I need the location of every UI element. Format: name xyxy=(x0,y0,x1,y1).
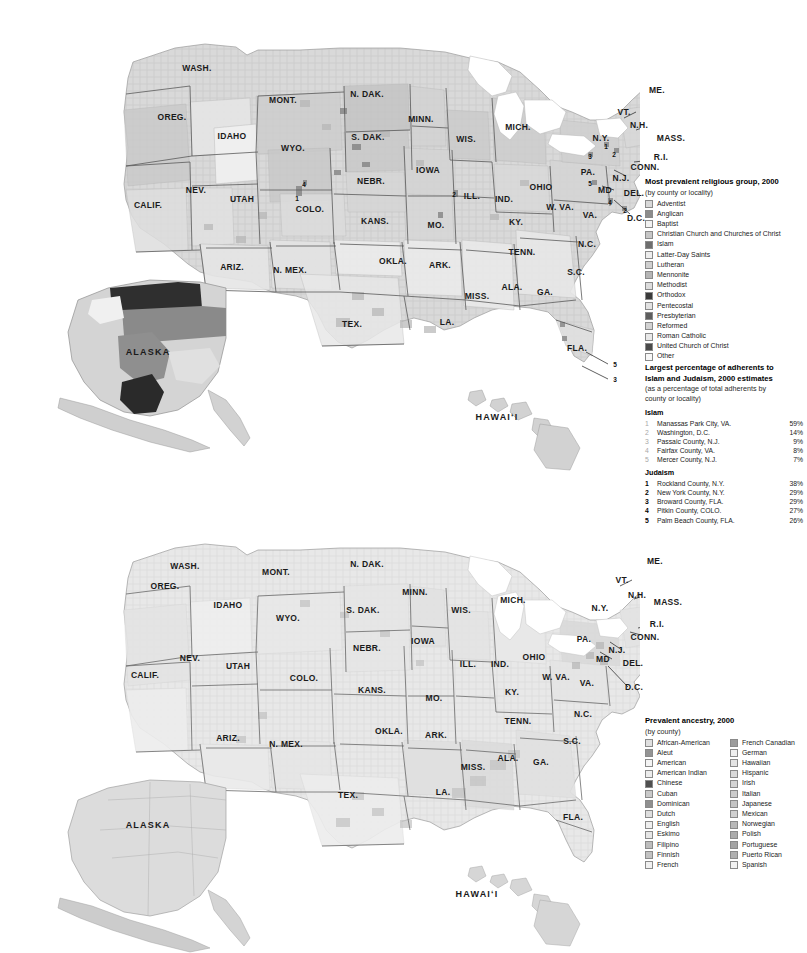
ancestry-legend-item[interactable]: Chinese xyxy=(645,780,720,788)
religion-legend-item[interactable]: United Church of Christ xyxy=(645,343,803,351)
ancestry-legend-label: Hispanic xyxy=(742,770,768,777)
ml-rank-groups: Islam1Manassas Park City, VA.59%2Washing… xyxy=(645,408,803,524)
religion-legend-item[interactable]: Lutheran xyxy=(645,261,803,269)
islam-judaism-legend: Largest percentage of adherents to Islam… xyxy=(645,363,803,526)
ancestry-legend-swatch-icon xyxy=(730,861,738,869)
ancestry-legend-item[interactable]: American xyxy=(645,759,720,767)
religion-legend-swatch-icon xyxy=(645,210,653,218)
ancestry-legend-swatch-icon xyxy=(645,749,653,757)
ancestry-legend-label: Italian xyxy=(742,791,760,798)
ancestry-legend-item[interactable]: Hispanic xyxy=(730,770,805,778)
ancestry-legend-item[interactable]: Portuguese xyxy=(730,841,805,849)
ancestry-legend-item[interactable]: German xyxy=(730,749,805,757)
religion-legend-swatch-icon xyxy=(645,200,653,208)
religion-legend-item[interactable]: Reformed xyxy=(645,322,803,330)
ancestry-legend-item[interactable]: Japanese xyxy=(730,800,805,808)
ancestry-legend-label: Japanese xyxy=(742,801,772,808)
rank-number: 5 xyxy=(645,456,657,463)
rank-percentage: 38% xyxy=(781,480,803,487)
ancestry-legend-item[interactable]: Puerto Rican xyxy=(730,851,805,859)
state-label: R.I. xyxy=(650,619,664,629)
religion-legend-item[interactable]: Latter-Day Saints xyxy=(645,251,803,259)
rank-place-name: Palm Beach County, FLA. xyxy=(657,517,781,524)
religion-legend-item[interactable]: Baptist xyxy=(645,220,803,228)
ancestry-legend-item[interactable]: French Canadian xyxy=(730,739,805,747)
ancestry-map-graphic xyxy=(0,500,640,953)
religion-legend-item[interactable]: Mennonite xyxy=(645,271,803,279)
state-label: MASS. xyxy=(657,133,685,143)
ancestry-legend-item[interactable]: Dominican xyxy=(645,800,720,808)
ancestry-legend-item[interactable]: Cuban xyxy=(645,790,720,798)
religion-map-graphic xyxy=(0,0,640,500)
ancestry-legend-item[interactable]: Eskimo xyxy=(645,831,720,839)
religion-legend-item[interactable]: Roman Catholic xyxy=(645,333,803,341)
map-rank-marker: 4 xyxy=(302,181,306,188)
religion-legend-label: Christian Church and Churches of Christ xyxy=(657,231,781,238)
ancestry-legend-title: Prevalent ancestry, 2000 xyxy=(645,716,805,726)
ancestry-legend-item[interactable]: Filipino xyxy=(645,841,720,849)
ancestry-legend-items-left: African-AmericanAleutAmericanAmerican In… xyxy=(645,739,720,871)
ancestry-legend-label: Chinese xyxy=(657,780,682,787)
ancestry-legend-label: American Indian xyxy=(657,770,707,777)
religion-legend-label: Other xyxy=(657,353,674,360)
ancestry-legend-item[interactable]: African-American xyxy=(645,739,720,747)
religion-legend-label: Anglican xyxy=(657,211,683,218)
religion-legend-item[interactable]: Presbyterian xyxy=(645,312,803,320)
ancestry-legend-label: Dominican xyxy=(657,801,690,808)
ancestry-legend-item[interactable]: Dutch xyxy=(645,810,720,818)
religion-legend-item[interactable]: Orthodox xyxy=(645,292,803,300)
ancestry-legend-swatch-icon xyxy=(645,800,653,808)
religion-map[interactable]: WASH.OREG.IDAHOMONT.N. DAK.S. DAK.MINN.W… xyxy=(0,0,640,500)
rank-percentage: 7% xyxy=(781,456,803,463)
map-page: WASH.OREG.IDAHOMONT.N. DAK.S. DAK.MINN.W… xyxy=(0,0,807,953)
religion-legend-item[interactable]: Islam xyxy=(645,241,803,249)
religion-legend-item[interactable]: Christian Church and Churches of Christ xyxy=(645,231,803,239)
ancestry-legend-label: Cuban xyxy=(657,791,677,798)
rank-number: 1 xyxy=(645,480,657,487)
religion-legend-label: Presbyterian xyxy=(657,313,696,320)
religion-legend-item[interactable]: Methodist xyxy=(645,282,803,290)
ancestry-legend-swatch-icon xyxy=(645,861,653,869)
ancestry-legend-label: Finnish xyxy=(657,852,679,859)
rank-row: 1Rockland County, N.Y.38% xyxy=(645,480,803,487)
religion-legend-item[interactable]: Adventist xyxy=(645,200,803,208)
rank-place-name: Pitkin County, COLO. xyxy=(657,507,781,514)
ancestry-map[interactable]: WASH.OREG.IDAHOMONT.N. DAK.S. DAK.MINN.W… xyxy=(0,500,640,953)
map-rank-marker: 3 xyxy=(613,376,617,383)
religion-legend-item[interactable]: Pentecostal xyxy=(645,302,803,310)
ancestry-legend-item[interactable]: French xyxy=(645,861,720,869)
religion-legend-label: United Church of Christ xyxy=(657,343,729,350)
rank-number: 1 xyxy=(645,420,657,427)
ancestry-legend-swatch-icon xyxy=(645,780,653,788)
ancestry-legend-label: English xyxy=(657,821,680,828)
rank-row: 5Mercer County, N.J.7% xyxy=(645,456,803,463)
ancestry-legend-swatch-icon xyxy=(645,759,653,767)
map-rank-marker: 4 xyxy=(608,199,612,206)
ancestry-legend-item[interactable]: Finnish xyxy=(645,851,720,859)
ancestry-legend-swatch-icon xyxy=(645,810,653,818)
ancestry-legend-item[interactable]: Polish xyxy=(730,831,805,839)
ancestry-legend-label: Aleut xyxy=(657,750,673,757)
religion-legend-item[interactable]: Other xyxy=(645,353,803,361)
rank-place-name: Mercer County, N.J. xyxy=(657,456,781,463)
ancestry-legend-label: Dutch xyxy=(657,811,675,818)
ancestry-legend-item[interactable]: American Indian xyxy=(645,770,720,778)
map-rank-marker: 2 xyxy=(452,191,456,198)
religion-legend-item[interactable]: Anglican xyxy=(645,210,803,218)
ancestry-legend-item[interactable]: Mexican xyxy=(730,810,805,818)
ancestry-legend-swatch-icon xyxy=(730,770,738,778)
ancestry-legend-item[interactable]: Italian xyxy=(730,790,805,798)
religion-legend-label: Reformed xyxy=(657,323,687,330)
religion-legend-swatch-icon xyxy=(645,353,653,361)
ancestry-legend-item[interactable]: English xyxy=(645,821,720,829)
rank-row: 2Washington, D.C.14% xyxy=(645,429,803,436)
religion-legend-swatch-icon xyxy=(645,241,653,249)
ancestry-legend-label: German xyxy=(742,750,767,757)
ancestry-legend-item[interactable]: Aleut xyxy=(645,749,720,757)
rank-percentage: 26% xyxy=(781,517,803,524)
ancestry-legend-item[interactable]: Spanish xyxy=(730,861,805,869)
ancestry-legend-item[interactable]: Irish xyxy=(730,780,805,788)
ancestry-legend-item[interactable]: Hawaiian xyxy=(730,759,805,767)
alaska-inset-2 xyxy=(58,780,250,952)
ancestry-legend-item[interactable]: Norwegian xyxy=(730,821,805,829)
